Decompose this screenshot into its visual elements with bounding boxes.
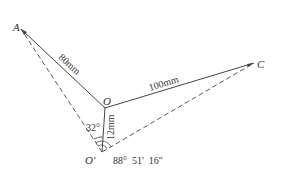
linkage-diagram: A O C O' 80mm 100mm 12mm 32° 88° 51' 16": [0, 0, 281, 179]
angle-label-88: 88° 51' 16": [113, 155, 163, 166]
point-label-Oprime: O': [85, 154, 96, 166]
angle-arc-32: [94, 137, 103, 139]
segment-OA: [21, 29, 105, 108]
dashed-OprimeC: [102, 63, 254, 152]
point-label-A: A: [12, 21, 20, 33]
segment-OC: [105, 63, 254, 108]
point-label-O: O: [103, 95, 111, 107]
point-label-C: C: [257, 58, 265, 70]
length-label-OA: 80mm: [57, 51, 83, 77]
arrowhead-C: [247, 63, 254, 67]
length-label-OOprime: 12mm: [105, 114, 116, 140]
dashed-OprimeA: [21, 29, 102, 152]
angle-label-32: 32°: [86, 122, 100, 133]
